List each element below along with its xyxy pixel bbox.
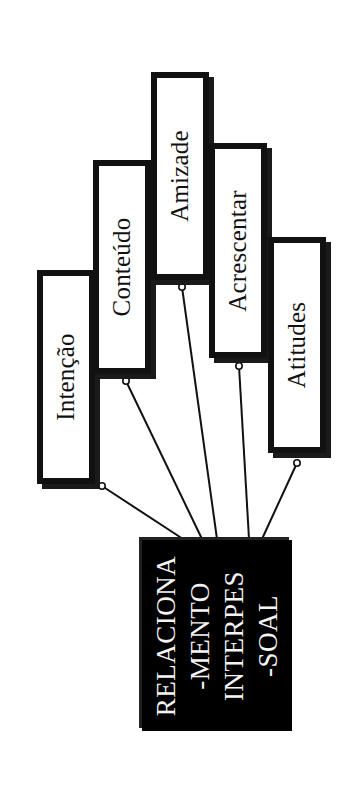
mind-map-diagram: Intenção Conteúdo Amizade Acrescentar At…: [0, 0, 361, 787]
branch-node-conteudo: Conteúdo: [93, 160, 151, 374]
central-topic-line: -MENTO: [183, 540, 217, 731]
anchor-dot-icon: [236, 363, 242, 369]
central-topic-text: RELACIONA -MENTO INTERPES -SOAL: [149, 540, 285, 731]
anchor-dot-icon: [294, 460, 300, 466]
connector-conteudo: [126, 381, 202, 539]
branch-label: Acrescentar: [224, 190, 252, 312]
central-topic-node: RELACIONA -MENTO INTERPES -SOAL: [142, 540, 292, 731]
anchor-dot-icon: [99, 483, 105, 489]
branch-node-amizade: Amizade: [151, 72, 209, 280]
central-topic-line: RELACIONA: [149, 540, 183, 731]
anchor-dot-icon: [123, 378, 129, 384]
connector-intencao: [102, 486, 183, 539]
branch-label: Atitudes: [283, 302, 311, 388]
branch-label: Amizade: [166, 130, 194, 222]
anchor-dot-icon: [179, 284, 185, 290]
branch-node-acrescentar: Acrescentar: [209, 143, 267, 358]
branch-node-atitudes: Atitudes: [268, 237, 326, 453]
branch-label: Conteúdo: [108, 218, 136, 317]
connector-acrescentar: [239, 366, 249, 539]
central-topic-line: INTERPES: [217, 540, 251, 731]
connector-atitudes: [262, 463, 297, 539]
branch-label: Intenção: [52, 333, 80, 421]
branch-node-intencao: Intenção: [37, 270, 95, 484]
central-topic-line: -SOAL: [251, 540, 285, 731]
